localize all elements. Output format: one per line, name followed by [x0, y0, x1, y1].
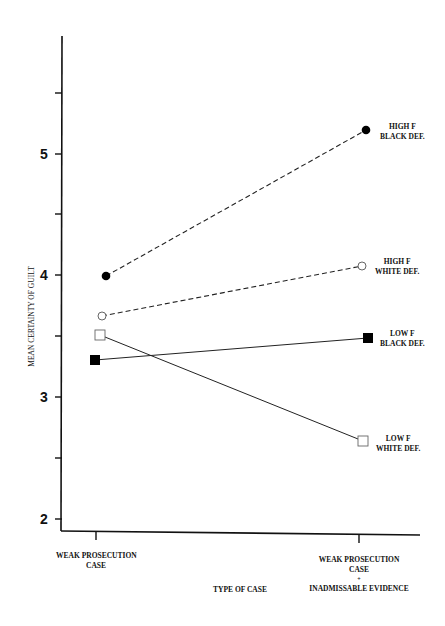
- y-tick-label-4: 4: [40, 267, 48, 283]
- y-axis-label: MEAN CERTAINTY OF GUILT: [27, 257, 36, 377]
- series-label-line: HIGH F: [375, 257, 419, 267]
- series-label-line: WHITE DEF.: [376, 444, 420, 454]
- series-label-line: BLACK DEF.: [380, 132, 425, 142]
- x-category-label-line: WEAK PROSECUTION: [309, 555, 409, 565]
- x-category-label-line: WEAK PROSECUTION: [56, 551, 136, 561]
- series-label-line: LOW F: [380, 329, 425, 339]
- open-circle-marker: [358, 262, 366, 270]
- x-category-label-line: INADMISSABLE EVIDENCE: [309, 584, 409, 594]
- series-low-f-white-line: [100, 335, 363, 441]
- x-category-label-line: CASE: [309, 565, 409, 575]
- x-category-label-line: +: [309, 575, 409, 584]
- filled-square-marker: [90, 355, 100, 365]
- series-label-line: LOW F: [376, 434, 420, 444]
- y-tick-label-5: 5: [40, 146, 48, 162]
- series-label-high-f-black: HIGH F BLACK DEF.: [380, 122, 425, 142]
- open-square-marker: [358, 436, 368, 446]
- x-axis: [61, 531, 420, 535]
- x-category-label-1: WEAK PROSECUTION CASE: [56, 551, 136, 571]
- x-category-label-2: WEAK PROSECUTION CASE + INADMISSABLE EVI…: [309, 555, 409, 594]
- series-label-line: HIGH F: [380, 122, 425, 132]
- series-label-low-f-black: LOW F BLACK DEF.: [380, 329, 425, 349]
- y-tick-label-3: 3: [40, 389, 48, 405]
- open-square-marker: [95, 330, 105, 340]
- series-high-f-white-line: [102, 266, 362, 316]
- series-label-line: WHITE DEF.: [375, 267, 419, 277]
- x-axis-label: TYPE OF CASE: [200, 585, 280, 595]
- series-label-low-f-white: LOW F WHITE DEF.: [376, 434, 420, 454]
- filled-square-marker: [363, 333, 373, 343]
- series-label-high-f-white: HIGH F WHITE DEF.: [375, 257, 419, 277]
- chart-canvas: [0, 0, 445, 626]
- y-tick-label-2: 2: [40, 511, 48, 527]
- filled-circle-marker: [362, 126, 371, 135]
- series-high-f-black-line: [106, 130, 366, 276]
- x-category-label-line: CASE: [56, 561, 136, 571]
- y-axis: [61, 36, 62, 531]
- filled-circle-marker: [102, 272, 111, 281]
- series-label-line: BLACK DEF.: [380, 339, 425, 349]
- open-circle-marker: [98, 312, 106, 320]
